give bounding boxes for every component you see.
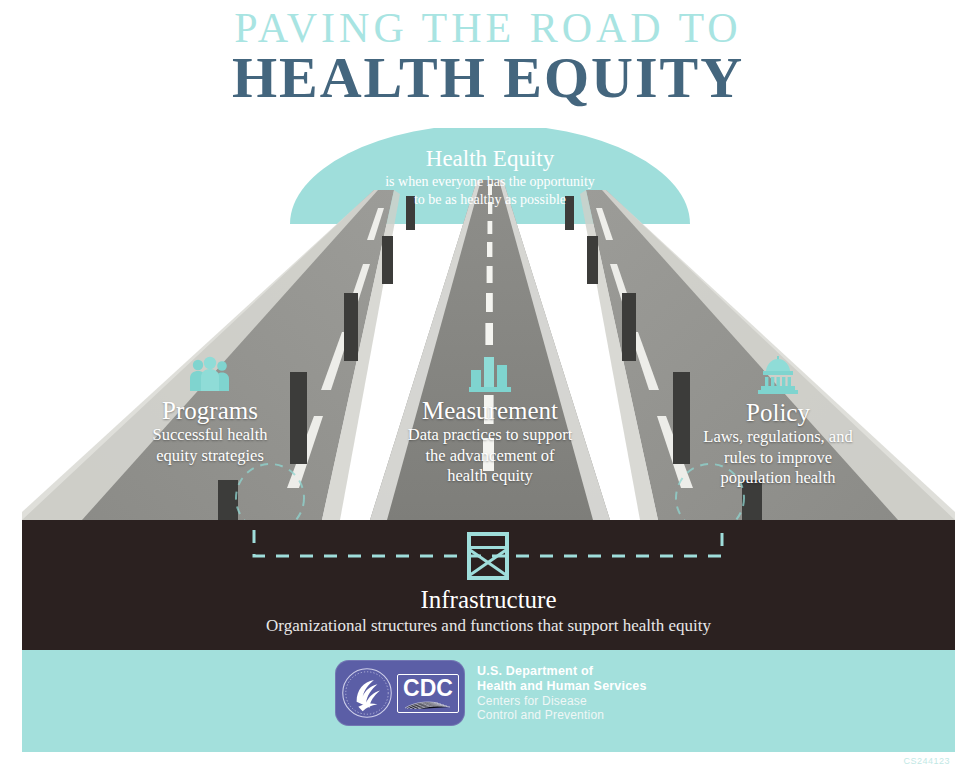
cdc-swoosh-icon (405, 701, 451, 709)
infographic-poster: PAVING THE ROAD TO HEALTH EQUITY (0, 0, 976, 780)
cdc-agency-text: U.S. Department of Health and Human Serv… (477, 664, 647, 722)
poster-title: PAVING THE ROAD TO HEALTH EQUITY (0, 6, 976, 107)
cdc-wordmark-box: CDC (397, 674, 459, 713)
infrastructure-band (22, 520, 955, 650)
title-line-2: HEALTH EQUITY (0, 48, 976, 107)
cdc-wordmark: CDC (403, 677, 453, 700)
cdc-logo-block: CDC U.S. Department of Health and Human … (335, 660, 647, 726)
road-scene-svg (22, 128, 955, 752)
agency-line-2: Health and Human Services (477, 679, 647, 694)
hhs-seal-icon (341, 667, 393, 719)
cs-number-mark: CS244123 (903, 756, 950, 766)
agency-line-4: Control and Prevention (477, 708, 647, 722)
title-line-1: PAVING THE ROAD TO (0, 6, 976, 50)
cdc-logo-badge: CDC (335, 660, 465, 726)
agency-line-1: U.S. Department of (477, 664, 647, 679)
agency-line-3: Centers for Disease (477, 694, 647, 708)
road-illustration: Health Equity is when everyone has the o… (22, 128, 955, 752)
